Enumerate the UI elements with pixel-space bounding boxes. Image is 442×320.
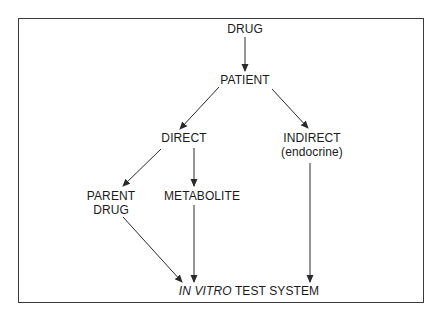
node-indirect-sublabel: (endocrine) (281, 145, 343, 159)
arrow-parent-drug-to-test-system (123, 217, 182, 282)
node-parent-drug-line1: PARENT (87, 189, 135, 203)
node-direct-label: DIRECT (161, 131, 206, 145)
node-parent-drug-line2: DRUG (87, 203, 135, 217)
node-patient: PATIENT (220, 73, 270, 87)
node-indirect: INDIRECT (endocrine) (281, 131, 343, 159)
node-direct: DIRECT (161, 131, 206, 145)
node-drug-label: DRUG (227, 22, 263, 36)
node-drug: DRUG (227, 22, 263, 36)
node-test-system-italic: IN VITRO (179, 284, 232, 298)
node-test-system-rest: TEST SYSTEM (232, 284, 319, 298)
arrow-direct-to-parent-drug (123, 149, 161, 186)
node-indirect-label: INDIRECT (281, 131, 343, 145)
node-metabolite: METABOLITE (164, 189, 240, 203)
node-parent-drug: PARENT DRUG (87, 189, 135, 217)
node-test-system: IN VITRO TEST SYSTEM (179, 284, 319, 298)
node-patient-label: PATIENT (220, 73, 270, 87)
node-metabolite-label: METABOLITE (164, 189, 240, 203)
arrow-patient-to-direct (180, 87, 219, 129)
diagram-edges (0, 0, 442, 320)
arrow-patient-to-indirect (272, 89, 308, 128)
